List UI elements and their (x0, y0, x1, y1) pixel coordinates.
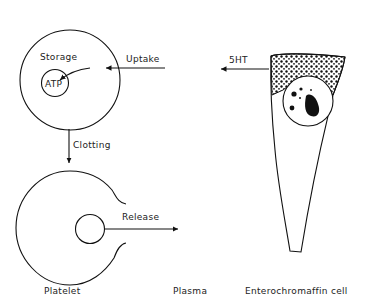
uptake-label: Uptake (126, 54, 160, 64)
chromatin-dot (291, 91, 296, 96)
enterochromaffin-cell (271, 54, 345, 252)
clotting-label: Clotting (73, 140, 111, 150)
releasing-granule (76, 215, 105, 244)
5ht-label: 5HT (229, 55, 248, 65)
enterochromaffin-cell-label: Enterochromaffin cell (245, 286, 348, 296)
storage-label: Storage (40, 52, 77, 62)
platelet-label: Platelet (44, 286, 81, 296)
release-label: Release (122, 212, 159, 222)
platelet-releasing (16, 171, 126, 285)
atp-label: ATP (45, 79, 63, 89)
platelet-membrane (20, 30, 120, 130)
platelet-open-membrane (16, 171, 126, 285)
chromatin-dot (299, 87, 302, 90)
serotonin-pathway-diagram: Storage ATP Uptake 5HT Clotting Release (0, 0, 365, 306)
chromatin-dot (299, 97, 301, 99)
chromatin-dot (310, 89, 312, 91)
chromatin-dot (290, 106, 295, 111)
platelet-storage: Storage ATP (20, 30, 120, 130)
plasma-label: Plasma (173, 286, 207, 296)
